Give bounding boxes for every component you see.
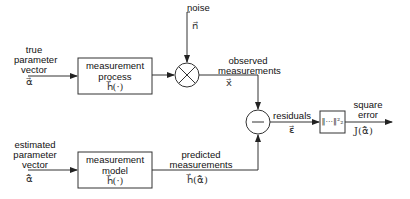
norm-symbol: ‖···‖²₂: [320, 116, 345, 127]
est-param-label: estimated parameter vector: [12, 140, 58, 170]
predicted-label: predicted measurements: [166, 150, 236, 170]
true-param-label: true parameter vector: [14, 45, 54, 75]
process-block-label: measurement process: [78, 61, 152, 82]
true-param-line3: vector: [14, 65, 54, 75]
predicted-line2: measurements: [166, 160, 236, 170]
square-error-line2: error: [350, 110, 386, 120]
residuals-symbol: ε⃗: [289, 124, 294, 135]
process-line1: measurement: [78, 61, 152, 72]
est-param-symbol: α̂⃗: [26, 173, 33, 184]
process-func: h⃗(·): [78, 81, 152, 92]
est-param-line3: vector: [12, 160, 58, 170]
square-error-label: square error: [350, 100, 386, 120]
square-error-symbol: J(α̂⃗): [354, 125, 373, 136]
observed-symbol: x⃗: [226, 77, 232, 88]
noise-arrow: [187, 12, 190, 62]
true-param-symbol: α⃗: [26, 76, 33, 87]
model-line1: measurement: [78, 155, 152, 166]
residuals-label: residuals: [273, 111, 311, 121]
model-block-label: measurement model: [78, 155, 152, 176]
observed-label: observed measurements: [218, 56, 278, 76]
predicted-symbol: h⃗(α̂⃗): [187, 174, 208, 185]
model-func: h⃗(·): [78, 175, 152, 186]
observed-line2: measurements: [218, 66, 278, 76]
noise-label: noise: [187, 3, 210, 13]
noise-symbol: n⃗: [192, 20, 198, 31]
